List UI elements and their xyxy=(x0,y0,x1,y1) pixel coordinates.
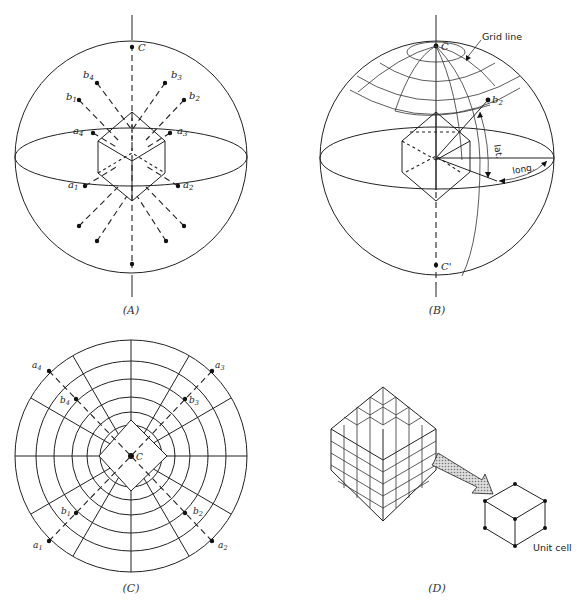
unit-cell xyxy=(483,482,547,548)
caption-d: (D) xyxy=(428,582,445,595)
label-unit-cell: Unit cell xyxy=(533,542,572,553)
latitude-arc xyxy=(480,112,488,178)
label-b2: b2 xyxy=(492,94,503,107)
crystal-projection-figure: C b xyxy=(0,0,580,607)
label-b1: b1 xyxy=(66,91,77,104)
label-a3: a3 xyxy=(215,360,225,372)
label-a4: a4 xyxy=(73,125,83,138)
panel-b: C C' b2 xyxy=(320,15,554,297)
label-c-prime: C' xyxy=(441,261,451,272)
caption-c: (C) xyxy=(123,582,140,595)
label-b3: b3 xyxy=(189,395,199,407)
label-a3: a3 xyxy=(177,125,188,138)
crystal-block xyxy=(331,387,436,521)
panel-d: Unit cell xyxy=(331,387,572,553)
panel-c: C a4 a3 b4 b3 b1 b2 a1 a2 xyxy=(15,340,247,572)
label-a1: a1 xyxy=(68,179,78,192)
label-b4: b4 xyxy=(60,395,70,407)
label-a2: a2 xyxy=(183,179,194,192)
label-b2: b2 xyxy=(193,506,203,518)
arrow-to-unit-cell xyxy=(432,453,493,494)
label-b4: b4 xyxy=(83,69,94,82)
caption-b: (B) xyxy=(429,304,446,317)
grid-line-pointer xyxy=(466,40,481,59)
label-lat: lat. xyxy=(492,144,504,160)
label-c: C xyxy=(138,42,146,53)
label-c: C xyxy=(136,452,143,462)
label-long: long. xyxy=(512,162,536,176)
label-a1: a1 xyxy=(33,540,43,552)
caption-a: (A) xyxy=(123,304,140,317)
panel-a: C b xyxy=(15,15,247,297)
label-a4: a4 xyxy=(32,360,42,372)
label-b2: b2 xyxy=(189,90,200,103)
label-b1: b1 xyxy=(61,506,71,518)
label-a2: a2 xyxy=(218,540,228,552)
label-b3: b3 xyxy=(171,69,182,82)
cube xyxy=(402,112,470,201)
equator-ellipse xyxy=(15,128,247,186)
label-grid-line: Grid line xyxy=(482,31,522,42)
sphere-outline xyxy=(15,41,247,273)
